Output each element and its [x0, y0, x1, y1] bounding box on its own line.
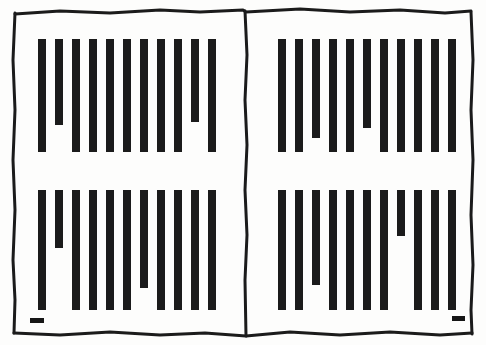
- bar: [174, 39, 182, 152]
- bar: [397, 190, 405, 236]
- bar: [89, 190, 97, 310]
- bar: [208, 190, 216, 310]
- bar: [55, 190, 63, 248]
- bar: [72, 190, 80, 310]
- bar: [278, 190, 286, 310]
- border-right-edge: [471, 12, 473, 334]
- bar: [191, 190, 199, 310]
- bar: [329, 39, 337, 152]
- bar: [89, 39, 97, 152]
- bar: [431, 190, 439, 310]
- bar: [55, 39, 63, 125]
- bar: [123, 39, 131, 152]
- bar: [380, 190, 388, 310]
- bar: [329, 190, 337, 310]
- bar: [123, 190, 131, 310]
- bar: [312, 39, 320, 138]
- bar: [295, 39, 303, 152]
- bar: [140, 190, 148, 288]
- bar: [346, 39, 354, 152]
- bar: [414, 190, 422, 310]
- bar: [140, 39, 148, 152]
- bar: [363, 39, 371, 128]
- bar: [106, 190, 114, 310]
- bar: [448, 190, 456, 310]
- bar: [448, 39, 456, 152]
- bar: [208, 39, 216, 152]
- border-top-edge: [15, 9, 471, 14]
- figure-canvas: [0, 0, 486, 345]
- bar: [191, 39, 199, 122]
- bottom-left-tick: [30, 318, 44, 323]
- bar: [397, 39, 405, 152]
- bar: [72, 39, 80, 152]
- bar: [380, 39, 388, 152]
- bar: [106, 39, 114, 152]
- bar: [278, 39, 286, 152]
- bar: [157, 190, 165, 310]
- bar: [312, 190, 320, 285]
- center-divider: [245, 11, 247, 336]
- border-left-edge: [13, 13, 15, 333]
- bar: [38, 190, 46, 310]
- bottom-right-tick: [452, 316, 465, 321]
- bar: [431, 39, 439, 152]
- border-bottom-edge: [14, 332, 472, 336]
- bar: [174, 190, 182, 310]
- bar: [157, 39, 165, 152]
- bar: [38, 39, 46, 152]
- bar: [363, 190, 371, 310]
- bar: [346, 190, 354, 310]
- bar: [295, 190, 303, 310]
- bar: [414, 39, 422, 152]
